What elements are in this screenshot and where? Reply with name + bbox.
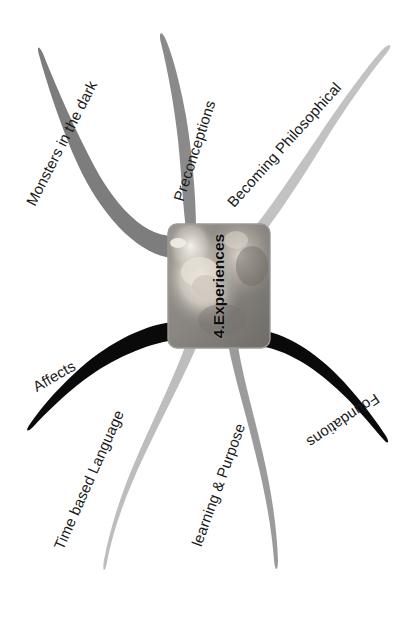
- center-node-photo: [168, 224, 270, 348]
- branch-shape-becoming-philosophical[interactable]: [250, 45, 390, 240]
- branch-shape-time-based-language[interactable]: [103, 344, 196, 570]
